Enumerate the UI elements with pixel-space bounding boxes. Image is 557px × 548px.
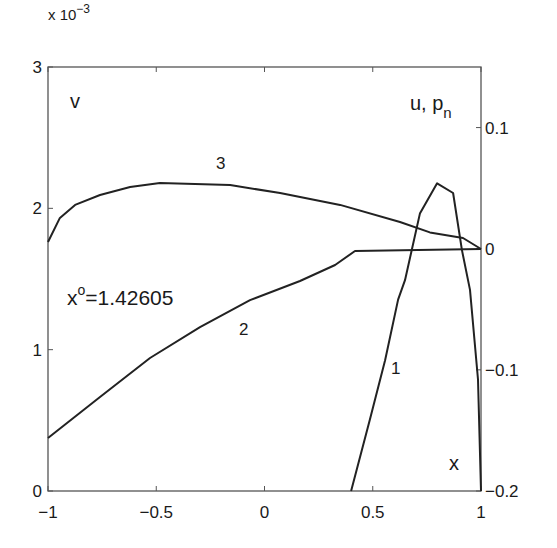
right-y-tick-label: −0.2 bbox=[485, 482, 519, 501]
left-y-tick-label: 2 bbox=[33, 199, 42, 218]
right-y-tick-label: −0.1 bbox=[485, 361, 519, 380]
left-y-tick-label: 3 bbox=[33, 58, 42, 77]
left-y-tick-label: 1 bbox=[33, 341, 42, 360]
chart: −1−0.500.51 0123 −0.2−0.100.1 x 10−3 v u… bbox=[0, 0, 557, 548]
x-tick-label: −0.5 bbox=[139, 503, 173, 522]
curve-label-2: 2 bbox=[239, 320, 248, 339]
left-axis-label-v: v bbox=[70, 90, 80, 112]
left-axis-multiplier: x 10−3 bbox=[48, 2, 90, 23]
curves bbox=[48, 183, 481, 491]
x-axis-label: x bbox=[449, 452, 459, 474]
x-tick-label: 0.5 bbox=[361, 503, 385, 522]
right-y-axis-ticks: −0.2−0.100.1 bbox=[476, 119, 519, 501]
curve-label-3: 3 bbox=[216, 154, 225, 173]
left-y-tick-label: 0 bbox=[33, 482, 42, 501]
right-y-tick-label: 0 bbox=[485, 240, 494, 259]
curve-3 bbox=[48, 183, 481, 249]
right-axis-label-u-pn: u, pn bbox=[410, 92, 452, 121]
x-tick-label: −1 bbox=[38, 503, 57, 522]
annotation-x0-value: xo=1.42605 bbox=[67, 282, 173, 309]
left-y-axis-ticks: 0123 bbox=[33, 58, 53, 501]
x-tick-label: 0 bbox=[260, 503, 269, 522]
plot-frame bbox=[48, 67, 481, 491]
plot-border bbox=[48, 67, 481, 491]
curve-1 bbox=[351, 183, 481, 491]
x-tick-label: 1 bbox=[476, 503, 485, 522]
right-y-tick-label: 0.1 bbox=[485, 119, 509, 138]
curve-label-1: 1 bbox=[391, 359, 400, 378]
curve-2 bbox=[48, 249, 481, 438]
